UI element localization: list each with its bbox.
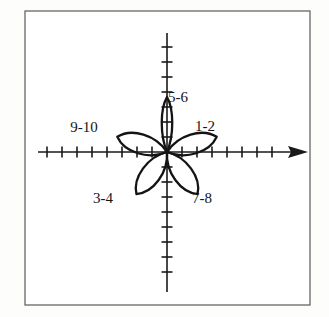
figure-container: 5-61-29-103-47-8	[0, 0, 329, 317]
petal-5-6-label: 5-6	[168, 89, 188, 105]
petal-3-4-label: 3-4	[93, 190, 113, 206]
petal-9-10-label: 9-10	[70, 119, 98, 135]
polar-rose-diagram: 5-61-29-103-47-8	[0, 0, 329, 317]
petal-7-8-label: 7-8	[192, 190, 212, 206]
petal-1-2-label: 1-2	[195, 118, 215, 134]
